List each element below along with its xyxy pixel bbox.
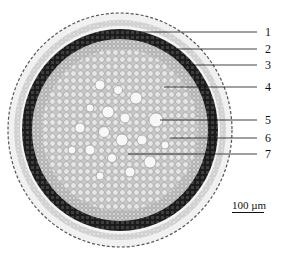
scale-bar-label: 100 µm: [232, 199, 266, 211]
label-3: 3: [265, 59, 271, 71]
label-7: 7: [265, 148, 271, 160]
label-2: 2: [265, 43, 271, 55]
label-1: 1: [265, 26, 271, 38]
label-6: 6: [265, 132, 271, 144]
stele: [32, 39, 208, 221]
label-5: 5: [265, 114, 271, 126]
scale-bar: [232, 212, 264, 213]
root-cross-section-diagram: [0, 0, 285, 265]
label-4: 4: [265, 81, 271, 93]
